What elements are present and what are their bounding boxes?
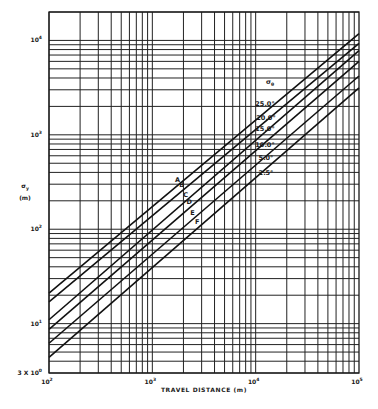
- legend-entry: 5.0°: [259, 154, 274, 162]
- x-tick-labels: 102103104105: [41, 377, 363, 385]
- legend-title: σθ: [266, 78, 274, 87]
- tick-exponent: 4: [39, 35, 42, 40]
- tick-base: 10: [31, 36, 39, 43]
- tick-base: 10: [351, 378, 359, 385]
- x-tick-label: 104: [248, 377, 260, 385]
- tick-base: 10: [31, 131, 39, 138]
- y-axis-units: (m): [19, 194, 31, 201]
- curve-f: [49, 88, 359, 358]
- x-axis-title: TRAVEL DISTANCE (m): [161, 386, 247, 393]
- curve-label-e: E: [190, 209, 194, 217]
- tick-exponent: 2: [50, 377, 53, 382]
- tick-exponent: 0: [39, 368, 42, 373]
- tick-base: 10: [145, 378, 153, 385]
- tick-exponent: 2: [39, 224, 42, 229]
- x-tick-label: 102: [41, 377, 53, 385]
- sigma-y-chart: ABCDEF σθ25.0°20.0°15.0°10.0°5.0°2.5° 10…: [0, 0, 378, 409]
- tick-exponent: 4: [256, 377, 259, 382]
- tick-base: 10: [31, 320, 39, 327]
- y-axis-title: σy (m): [19, 182, 31, 201]
- grid: [49, 12, 359, 373]
- tick-base: 10: [41, 378, 49, 385]
- curve-e: [49, 76, 359, 343]
- curve-label-b: B: [179, 181, 184, 189]
- tick-exponent: 5: [360, 377, 363, 382]
- legend-entry: 25.0°: [255, 100, 274, 108]
- curve-c: [49, 51, 359, 320]
- legend-title-subscript: θ: [271, 82, 274, 87]
- curve-d: [49, 61, 359, 329]
- curve-label-d: D: [187, 198, 193, 206]
- curves: [49, 34, 359, 358]
- x-tick-label: 105: [351, 377, 363, 385]
- curve-label-f: F: [195, 218, 199, 226]
- tick-base: 3 X 10: [18, 369, 39, 376]
- legend-entry: 15.0°: [255, 125, 274, 133]
- legend-entry: 2.5°: [259, 169, 274, 177]
- y-tick-label: 104: [31, 35, 43, 43]
- tick-base: 10: [248, 378, 256, 385]
- tick-exponent: 3: [153, 377, 156, 382]
- y-tick-labels: 3 X 100101102103104: [18, 35, 42, 376]
- tick-exponent: 3: [39, 130, 42, 135]
- tick-exponent: 1: [39, 319, 42, 324]
- y-tick-label: 101: [31, 319, 43, 327]
- legend-entry: 20.0°: [256, 114, 275, 122]
- y-tick-label: 102: [31, 224, 43, 232]
- y-tick-label: 103: [31, 130, 43, 138]
- plot-frame: [49, 12, 359, 373]
- y-axis-subscript: y: [26, 186, 29, 191]
- y-tick-label: 3 X 100: [18, 368, 42, 376]
- tick-base: 10: [31, 225, 39, 232]
- y-axis-symbol: σy: [21, 182, 29, 191]
- x-tick-label: 103: [145, 377, 157, 385]
- legend-entry: 10.0°: [255, 141, 274, 149]
